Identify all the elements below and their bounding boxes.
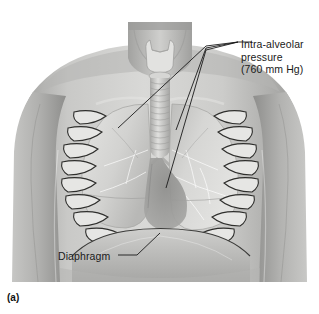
pressure-label-line-3: (760 mm Hg) — [241, 63, 304, 76]
intra-alveolar-pressure-label: Intra-alveolar pressure (760 mm Hg) — [241, 38, 304, 76]
pressure-label-line-1: Intra-alveolar — [241, 38, 304, 51]
diaphragm-label: Diaphragm — [58, 250, 110, 263]
figure-caption: (a) — [7, 292, 19, 303]
pressure-label-line-2: pressure — [241, 51, 304, 64]
